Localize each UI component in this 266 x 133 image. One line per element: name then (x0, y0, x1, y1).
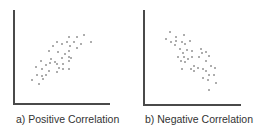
data-point (198, 56, 200, 58)
negative-correlation-caption: b) Negative Correlation (145, 113, 253, 125)
data-point (41, 68, 43, 70)
data-point (205, 51, 207, 53)
data-point (183, 56, 185, 58)
data-point (68, 36, 70, 38)
data-point (181, 68, 183, 70)
data-point (42, 78, 44, 80)
data-point (208, 55, 210, 57)
data-point (76, 47, 78, 49)
data-point (205, 60, 207, 62)
data-point (174, 44, 176, 46)
data-point (40, 60, 42, 62)
data-point (61, 43, 63, 45)
data-point (179, 48, 181, 50)
data-point (90, 41, 92, 43)
data-point (62, 68, 64, 70)
data-point (48, 50, 50, 52)
data-point (83, 34, 85, 36)
data-point (69, 45, 71, 47)
data-point (45, 74, 47, 76)
data-point (186, 49, 188, 51)
data-point (80, 43, 82, 45)
data-point (201, 52, 203, 54)
data-point (210, 65, 212, 67)
data-point (56, 71, 58, 73)
data-point (68, 56, 70, 58)
data-point (202, 77, 204, 79)
data-point (193, 70, 195, 72)
negative-correlation-panel: b) Negative Correlation (133, 0, 266, 133)
data-point (215, 82, 217, 84)
data-point (202, 68, 204, 70)
data-point (190, 68, 192, 70)
data-point (57, 51, 59, 53)
data-point (56, 41, 58, 43)
positive-correlation-panel: a) Positive Correlation (0, 0, 133, 133)
data-point (175, 40, 177, 42)
data-point (165, 38, 167, 40)
data-point (52, 45, 54, 47)
data-point (181, 41, 183, 43)
data-point (66, 41, 68, 43)
data-point (68, 60, 70, 62)
data-point (68, 50, 70, 52)
data-point (213, 74, 215, 76)
data-point (73, 41, 75, 43)
positive-correlation-caption: a) Positive Correlation (16, 113, 119, 125)
data-point (175, 36, 177, 38)
data-point (170, 41, 172, 43)
data-point (49, 62, 51, 64)
data-point (45, 64, 47, 66)
data-point (184, 43, 186, 45)
data-point (187, 58, 189, 60)
data-point (38, 83, 40, 85)
axes-lines (144, 10, 241, 105)
data-point (54, 61, 56, 63)
data-point (184, 61, 186, 63)
data-point (200, 48, 202, 50)
data-point (214, 67, 216, 69)
data-point (191, 56, 193, 58)
data-point (41, 75, 43, 77)
data-point (208, 89, 210, 91)
data-point (70, 57, 72, 59)
data-point (36, 74, 38, 76)
data-point (68, 68, 70, 70)
data-point (62, 63, 64, 65)
data-point (182, 52, 184, 54)
data-point (35, 66, 37, 68)
data-point (189, 40, 191, 42)
data-point (31, 79, 33, 81)
data-point (193, 65, 195, 67)
data-point (58, 67, 60, 69)
data-point (183, 34, 185, 36)
data-point (207, 79, 209, 81)
data-point (61, 57, 63, 59)
data-point (48, 70, 50, 72)
data-point (169, 31, 171, 33)
data-point (208, 74, 210, 76)
data-point (191, 50, 193, 52)
data-point (56, 63, 58, 65)
data-point (177, 56, 179, 58)
data-point (50, 58, 52, 60)
data-point (64, 53, 66, 55)
data-point (197, 67, 199, 69)
data-point (76, 36, 78, 38)
data-point (205, 70, 207, 72)
data-point (180, 60, 182, 62)
